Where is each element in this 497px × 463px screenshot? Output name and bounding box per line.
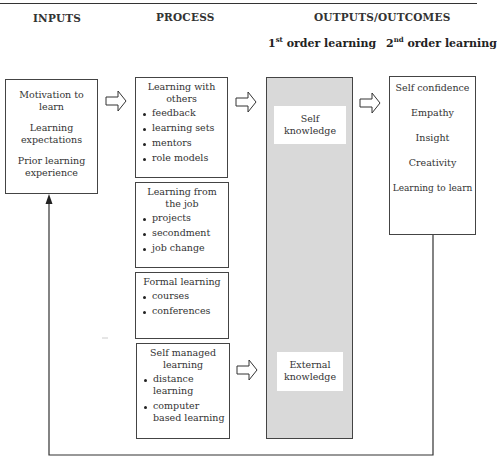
block-arrow-icon xyxy=(237,360,257,380)
feedback-loop-line xyxy=(49,200,433,455)
block-arrow-icon xyxy=(236,92,256,112)
block-arrow-icon xyxy=(360,93,380,113)
block-arrow-icon xyxy=(106,91,126,111)
arrowhead-up-icon xyxy=(46,194,53,204)
